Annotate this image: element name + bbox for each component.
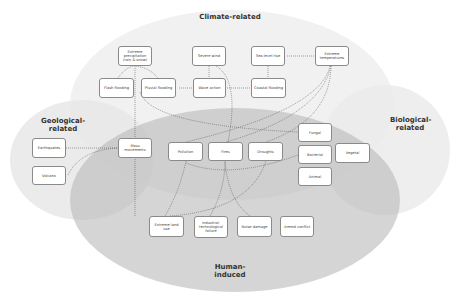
node-wave-action[interactable]: Wave action	[193, 78, 226, 98]
group-label-geological: Geological-related	[38, 117, 88, 133]
node-fungal[interactable]: Fungal	[298, 123, 332, 142]
group-label-biological: Biological-related	[390, 116, 430, 132]
node-sea-level-rise[interactable]: Sea-level rise	[251, 46, 285, 66]
node-extreme-land-use[interactable]: Extreme land use	[149, 216, 184, 237]
node-flash-flooding[interactable]: Flash flooding	[99, 78, 134, 98]
node-mass-movements[interactable]: Mass movements	[118, 138, 152, 158]
node-bacterial[interactable]: Bacterial	[298, 145, 332, 164]
node-armed-conflict[interactable]: Armed conflict	[280, 216, 314, 237]
node-pluvial-flooding[interactable]: Pluvial flooding	[141, 78, 176, 98]
node-fires[interactable]: Fires	[208, 142, 243, 161]
node-vegetal[interactable]: Vegetal	[335, 143, 370, 163]
node-industrial-technological-failure[interactable]: Industrial-technological failure	[194, 216, 228, 238]
node-pollution[interactable]: Pollution	[168, 142, 203, 161]
node-extreme-temperatures[interactable]: Extreme temperatures	[315, 46, 349, 66]
node-coastal-flooding[interactable]: Coastal flooding	[251, 78, 286, 98]
group-label-climate: Climate-related	[190, 13, 270, 21]
node-extreme-precipitation[interactable]: Extreme precipitation (rain & snow)	[118, 46, 152, 66]
node-earthquakes[interactable]: Earthquakes	[32, 138, 66, 158]
hazard-diagram: Climate-related Geological-related Biolo…	[0, 0, 458, 301]
node-volcano[interactable]: Volcano	[32, 166, 66, 185]
node-animal[interactable]: Animal	[298, 167, 332, 186]
node-droughts[interactable]: Droughts	[248, 142, 283, 161]
node-severe-wind[interactable]: Severe wind	[192, 46, 226, 66]
node-noise-damage[interactable]: Noise damage	[237, 216, 272, 237]
group-label-human: Human-induced	[210, 263, 250, 279]
